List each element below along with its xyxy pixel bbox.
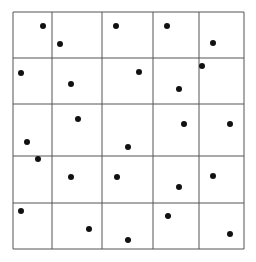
point-dot	[35, 156, 41, 162]
point-dot	[24, 139, 30, 145]
point-dot	[227, 121, 233, 127]
point-dot	[68, 174, 74, 180]
point-dot	[199, 63, 205, 69]
point-dot	[136, 69, 142, 75]
point-dot	[176, 86, 182, 92]
point-dot	[164, 23, 170, 29]
point-dot	[181, 121, 187, 127]
point-dot	[165, 213, 171, 219]
point-dot	[57, 41, 63, 47]
point-dot	[68, 81, 74, 87]
point-dot	[125, 144, 131, 150]
point-dot	[18, 208, 24, 214]
point-dot	[125, 237, 131, 243]
point-dot	[114, 174, 120, 180]
point-dot	[210, 173, 216, 179]
scatter-points	[18, 23, 233, 243]
point-dot	[176, 184, 182, 190]
point-dot	[227, 231, 233, 237]
point-dot	[75, 116, 81, 122]
point-dot	[40, 23, 46, 29]
point-dot	[18, 70, 24, 76]
grid-lines	[13, 12, 244, 249]
grid-point-diagram	[0, 0, 256, 262]
point-dot	[86, 226, 92, 232]
point-dot	[210, 40, 216, 46]
point-dot	[113, 23, 119, 29]
